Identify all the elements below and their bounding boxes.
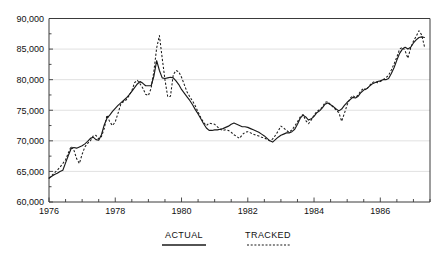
chart-container: 60,00065,00070,00075,00080,00085,00090,0… [0,0,446,260]
x-axis-tick-label: 1984 [304,206,324,216]
x-axis-labels-group: 197619781980198219841986 [39,206,390,216]
x-axis-ticks-group [49,198,430,203]
y-axis-tick-label: 75,000 [16,106,44,116]
y-axis-tick-label: 90,000 [16,14,44,24]
x-axis-tick-label: 1980 [172,206,192,216]
x-axis-tick-label: 1978 [105,206,125,216]
line-chart: 60,00065,00070,00075,00080,00085,00090,0… [0,0,446,260]
x-axis-tick-label: 1976 [39,206,59,216]
x-axis-tick-label: 1982 [238,206,258,216]
y-axis-tick-label: 70,000 [16,136,44,146]
legend-label-actual: ACTUAL [165,230,203,240]
series-line-actual [49,37,424,178]
y-axis-labels-group: 60,00065,00070,00075,00080,00085,00090,0… [16,14,44,208]
x-axis-tick-label: 1986 [370,206,390,216]
y-axis-tick-label: 85,000 [16,44,44,54]
gridlines-group [49,49,430,171]
series-line-tracked [49,31,424,178]
legend: ACTUAL TRACKED [162,230,291,245]
y-axis-tick-label: 65,000 [16,167,44,177]
y-axis-tick-label: 80,000 [16,75,44,85]
legend-label-tracked: TRACKED [245,230,291,240]
